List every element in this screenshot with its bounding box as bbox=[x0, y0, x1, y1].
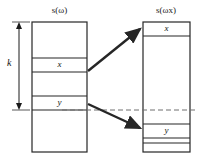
k-bracket bbox=[12, 22, 30, 110]
diagram-overlay bbox=[0, 0, 198, 161]
left-array bbox=[32, 22, 87, 152]
mapping-arrow-y bbox=[88, 104, 140, 128]
mapping-arrow-x bbox=[88, 29, 140, 71]
figure-root: s(ω) s(ωx) k x y x y bbox=[0, 0, 198, 161]
right-array bbox=[143, 22, 190, 152]
